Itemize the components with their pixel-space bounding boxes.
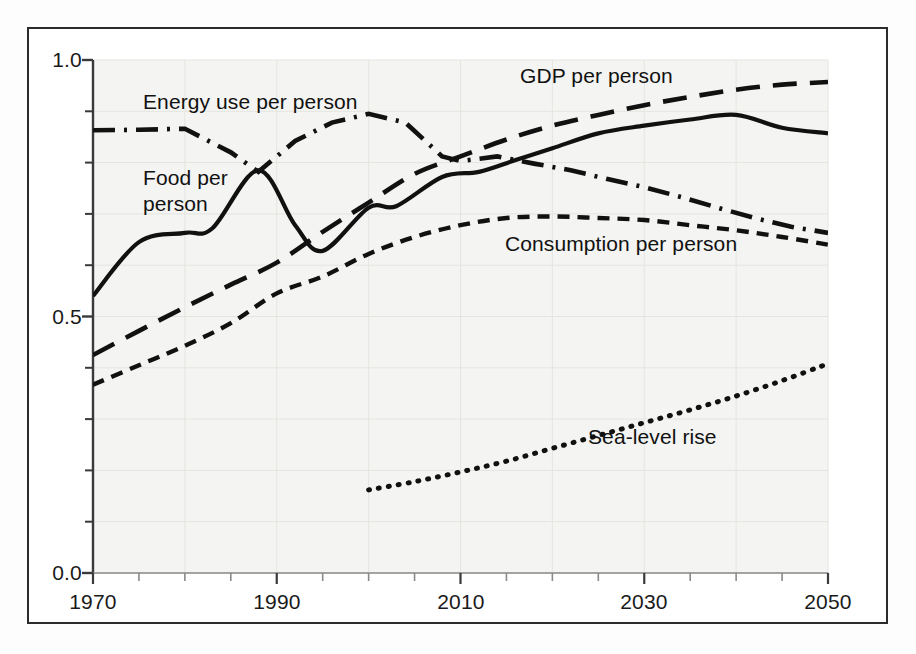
figure-container: 1.0 0.5 0.0 1970 1990 2010 2030 2050 Ene… <box>0 0 916 654</box>
series-label-food-line1: Food per <box>143 166 228 191</box>
x-tick-label-2010: 2010 <box>421 590 501 614</box>
x-tick-label-2050: 2050 <box>788 590 868 614</box>
chart-plot-area <box>0 0 916 654</box>
x-tick-label-1970: 1970 <box>53 590 133 614</box>
x-tick-label-2030: 2030 <box>604 590 684 614</box>
series-label-sea-level: Sea-level rise <box>588 425 717 450</box>
y-tick-label-1: 1.0 <box>40 48 82 72</box>
y-tick-label-2: 0.5 <box>40 305 82 329</box>
y-tick-label-3: 0.0 <box>40 561 82 585</box>
series-label-food-line2: person <box>143 192 208 217</box>
series-label-energy: Energy use per person <box>143 90 358 115</box>
series-label-consumption: Consumption per person <box>505 232 737 257</box>
series-label-gdp: GDP per person <box>520 64 673 89</box>
x-tick-label-1990: 1990 <box>237 590 317 614</box>
